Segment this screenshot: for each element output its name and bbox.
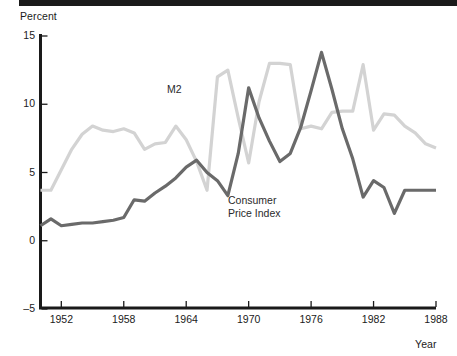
plot-area [0,0,457,356]
y-axis-ticks [42,36,48,309]
y-tick-label--5: –5 [11,302,35,314]
y-tick-label-10: 10 [11,97,35,109]
x-tick-label-1982: 1982 [354,313,394,325]
x-tick-label-1958: 1958 [104,313,144,325]
series-line-m2 [41,63,437,190]
x-tick-label-1952: 1952 [41,313,81,325]
x-tick-label-1976: 1976 [291,313,331,325]
series-label-m2: M2 [167,83,182,96]
y-tick-label-15: 15 [11,29,35,41]
y-tick-label-0: 0 [11,234,35,246]
x-axis-ticks [61,301,436,307]
series-label-cpi-line1: Consumer [228,194,281,207]
axes [39,34,436,309]
series-label-cpi: Consumer Price Index [228,194,281,219]
x-tick-label-1988: 1988 [416,313,456,325]
y-tick-label-5: 5 [11,166,35,178]
chart-figure: Percent Year –5051015 195219581964197019… [0,0,457,356]
series-label-cpi-line2: Price Index [228,207,281,220]
x-tick-label-1964: 1964 [166,313,206,325]
x-tick-label-1970: 1970 [229,313,269,325]
